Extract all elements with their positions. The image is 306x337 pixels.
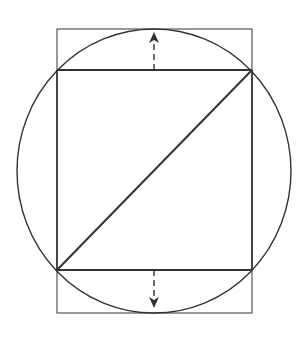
diagonal <box>57 70 252 270</box>
geometry-diagram <box>0 0 306 337</box>
down-arrow-icon <box>149 270 159 308</box>
up-arrow-icon <box>149 32 159 70</box>
